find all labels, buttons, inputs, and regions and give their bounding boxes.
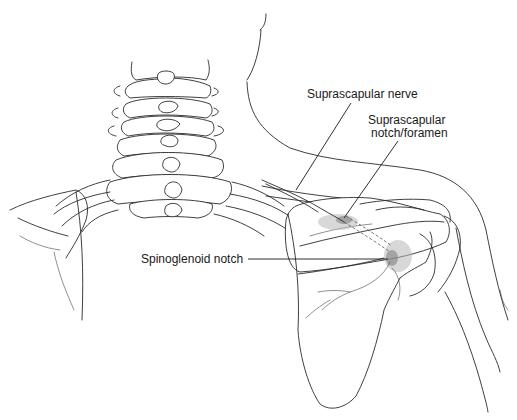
label-suprascapular-notch-line1: Suprascapular bbox=[368, 114, 445, 127]
label-suprascapular-notch-line2: notch/foramen bbox=[371, 127, 448, 140]
upper-arm-outline bbox=[445, 228, 508, 412]
label-spinoglenoid-notch: Spinoglenoid notch bbox=[141, 253, 243, 266]
right-scapula bbox=[285, 197, 460, 408]
shoulder-line-art bbox=[0, 0, 517, 420]
cervical-spine bbox=[107, 60, 232, 218]
label-suprascapular-nerve: Suprascapular nerve bbox=[307, 88, 418, 101]
leader-suprascapular-nerve bbox=[296, 103, 351, 190]
neck-outline bbox=[247, 14, 508, 320]
anatomy-illustration: Suprascapular nerve Suprascapular notch/… bbox=[0, 0, 517, 420]
left-shoulder bbox=[10, 190, 88, 320]
